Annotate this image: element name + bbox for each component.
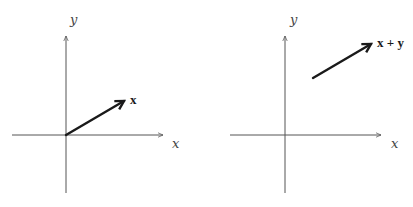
vector-x-plus-y-arrow — [313, 44, 371, 78]
left-panel: y x x — [12, 12, 180, 193]
diagram-canvas: y x x y x x + y — [0, 0, 413, 207]
left-x-axis-label: x — [172, 136, 180, 151]
vector-x-plus-y-label: x + y — [377, 35, 404, 50]
vector-x-label: x — [130, 92, 137, 107]
right-panel: y x x + y — [230, 12, 404, 193]
right-y-axis-label: y — [289, 12, 298, 27]
vector-x-arrow — [66, 101, 124, 135]
left-y-axis-label: y — [69, 12, 78, 27]
right-x-axis-label: x — [391, 136, 399, 151]
